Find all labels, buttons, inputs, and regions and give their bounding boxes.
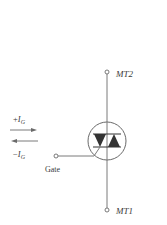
mt2-terminal-icon	[105, 70, 109, 74]
gate-terminal-icon	[54, 154, 58, 158]
mt2-label: MT2	[115, 69, 134, 79]
mt1-label: MT1	[115, 206, 133, 216]
arrow-right-icon	[31, 128, 37, 132]
positive-gate-current-label: +IG	[13, 114, 26, 125]
negative-gate-current-label: −IG	[13, 149, 26, 160]
arrow-left-icon	[11, 139, 17, 143]
mt1-terminal-icon	[105, 208, 109, 212]
gate-label: Gate	[45, 165, 61, 174]
triac-diagram: MT2 MT1 Gate +IG −IG	[0, 0, 167, 225]
